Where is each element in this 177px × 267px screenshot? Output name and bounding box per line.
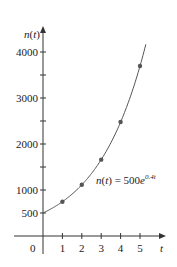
x-axis-label: t (160, 242, 164, 254)
x-tick-label: 1 (60, 242, 66, 254)
data-point (118, 120, 122, 124)
exponential-curve (43, 44, 146, 213)
y-tick-label: 1000 (16, 184, 39, 196)
x-axis-arrow-icon (159, 233, 166, 239)
data-point (99, 157, 103, 161)
x-tick-label: 3 (98, 242, 104, 254)
y-tick-label: 2000 (16, 138, 39, 150)
x-tick-label: 2 (79, 242, 85, 254)
origin-label: 0 (30, 242, 36, 254)
y-ticks: 5001000200030004000 (16, 46, 46, 219)
growth-chart: 12345 5001000200030004000 n(t) t 0 n(t) … (0, 0, 177, 267)
x-tick-label: 5 (137, 242, 143, 254)
y-tick-label: 500 (22, 207, 39, 219)
x-tick-label: 4 (118, 242, 124, 254)
y-tick-label: 3000 (16, 92, 39, 104)
data-point (80, 183, 84, 187)
equation-label: n(t) = 500e0.4t (96, 173, 157, 187)
y-axis-arrow-icon (40, 26, 46, 33)
y-axis-label: n(t) (24, 28, 40, 41)
y-tick-label: 4000 (16, 46, 39, 58)
data-point (138, 64, 142, 68)
data-point (60, 199, 64, 203)
